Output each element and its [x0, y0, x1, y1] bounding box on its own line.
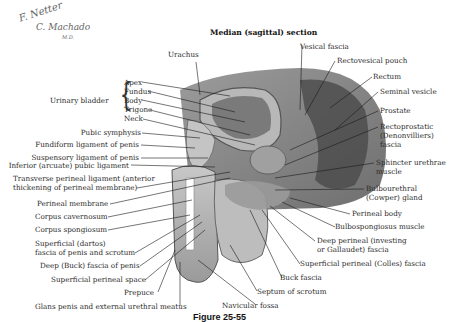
label-prostate: Prostate: [380, 107, 411, 116]
label-corpus-cavernosum: Corpus cavernosum: [35, 213, 108, 222]
label-glans-penis: Glans penis and external urethral meatus: [35, 303, 187, 312]
label-urachus: Urachus: [168, 51, 199, 60]
urethra-shape: [186, 178, 194, 250]
label-superficial-perineal-colles-fascia: Superficial perineal (Colles) fascia: [300, 260, 426, 269]
label-septum-of-scrotum: Septum of scrotum: [257, 288, 326, 297]
label-neck: Neck: [124, 115, 143, 124]
label-buck-fascia: Buck fascia: [280, 274, 322, 283]
prostate-shape: [250, 146, 286, 174]
label-fundiform-ligament: Fundiform ligament of penis: [35, 141, 139, 150]
label-deep-perineal-fascia-2: or Gallaudet) fascia: [317, 246, 389, 255]
label-seminal-vesicle: Seminal vesicle: [380, 88, 437, 97]
label-pubic-symphysis: Pubic symphysis: [81, 129, 141, 138]
figure-caption: Figure 25-55: [193, 312, 246, 322]
label-perineal-membrane: Perineal membrane: [37, 200, 108, 209]
label-prepuce: Prepuce: [124, 289, 154, 298]
label-transverse-perineal-ligament-2: thickening of perineal membrane): [13, 184, 137, 193]
penis-shape: [172, 165, 218, 282]
label-navicular-fossa: Navicular fossa: [222, 302, 279, 311]
label-bulbospongiosus-muscle: Bulbospongiosus muscle: [335, 223, 425, 232]
label-bulbourethral-gland-2: (Cowper) gland: [366, 194, 423, 203]
label-vesical-fascia: Vesical fascia: [300, 43, 349, 52]
label-perineal-body: Perineal body: [352, 210, 402, 219]
label-rectovesical-pouch: Rectovesical pouch: [337, 57, 407, 66]
label-superficial-perineal-space: Superficial perineal space: [51, 276, 146, 285]
label-corpus-spongiosum: Corpus spongiosum: [35, 226, 107, 235]
label-sphincter-urethrae-2: muscle: [376, 168, 402, 177]
label-urinary-bladder: Urinary bladder: [50, 97, 109, 106]
label-inferior-pubic-ligament: Inferior (arcuate) pubic ligament: [9, 162, 129, 171]
label-rectum: Rectum: [373, 73, 401, 82]
label-superficial-dartos-fascia-2: fascia of penis and scrotum: [35, 249, 135, 258]
label-deep-buck-fascia: Deep (Buck) fascia of penis: [40, 262, 140, 271]
label-rectoprostatic-fascia-3: fascia: [380, 141, 401, 150]
